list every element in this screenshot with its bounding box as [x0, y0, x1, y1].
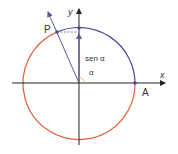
label-point-a: A: [142, 87, 149, 98]
label-angle: α: [89, 68, 94, 77]
point-top-dot: [77, 26, 81, 30]
label-point-p: P: [44, 24, 51, 35]
label-sine: sen α: [85, 54, 105, 63]
unit-circle-diagram: y x P A sen α α: [0, 0, 178, 154]
point-a-dot: [133, 81, 137, 85]
label-y-axis: y: [67, 7, 73, 17]
label-x-axis: x: [159, 70, 165, 80]
point-p-dot: [55, 30, 59, 34]
angle-ray: [48, 12, 79, 83]
